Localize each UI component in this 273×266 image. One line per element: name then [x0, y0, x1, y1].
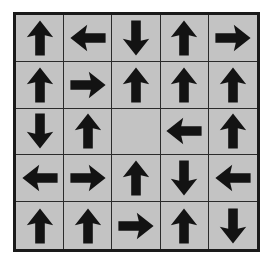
grid-cell-r4-c4: [161, 155, 209, 202]
arrow-down-icon: [164, 158, 204, 198]
arrow-up-icon: [213, 65, 253, 105]
grid-cell-r3-c1: [16, 109, 64, 156]
arrow-up-icon: [116, 158, 156, 198]
arrow-up-icon: [20, 206, 60, 246]
arrow-right-icon: [68, 158, 108, 198]
grid-cell-r1-c1: [16, 15, 64, 62]
arrow-left-icon: [20, 158, 60, 198]
grid-cell-r3-c2: [64, 109, 112, 156]
arrow-down-icon: [116, 18, 156, 58]
arrow-right-icon: [213, 18, 253, 58]
arrow-up-icon: [68, 111, 108, 151]
arrow-up-icon: [20, 18, 60, 58]
arrow-up-icon: [20, 65, 60, 105]
arrow-up-icon: [164, 206, 204, 246]
grid-cell-r4-c1: [16, 155, 64, 202]
arrow-up-icon: [164, 65, 204, 105]
grid-cell-r5-c3: [112, 202, 160, 249]
arrow-down-icon: [213, 206, 253, 246]
arrow-right-icon: [68, 65, 108, 105]
arrow-right-icon: [116, 206, 156, 246]
grid-cell-r1-c5: [209, 15, 257, 62]
grid-cell-r3-c3: [112, 109, 160, 156]
arrow-up-icon: [68, 206, 108, 246]
grid-cell-r4-c5: [209, 155, 257, 202]
grid-cell-r1-c2: [64, 15, 112, 62]
arrow-left-icon: [213, 158, 253, 198]
arrow-up-icon: [164, 18, 204, 58]
grid-cell-r4-c3: [112, 155, 160, 202]
arrow-left-icon: [68, 18, 108, 58]
grid-cell-r2-c1: [16, 62, 64, 109]
arrow-direction-grid: [13, 12, 260, 252]
grid-cell-r3-c5: [209, 109, 257, 156]
grid-cell-r2-c3: [112, 62, 160, 109]
grid-cell-r5-c2: [64, 202, 112, 249]
grid-cell-r3-c4: [161, 109, 209, 156]
grid-cell-r2-c4: [161, 62, 209, 109]
grid-cell-r5-c4: [161, 202, 209, 249]
grid-cell-r1-c3: [112, 15, 160, 62]
arrow-up-icon: [213, 111, 253, 151]
arrow-up-icon: [116, 65, 156, 105]
arrow-left-icon: [164, 111, 204, 151]
grid-cell-r2-c5: [209, 62, 257, 109]
grid-cell-r5-c1: [16, 202, 64, 249]
grid-cell-r1-c4: [161, 15, 209, 62]
grid-cell-r4-c2: [64, 155, 112, 202]
grid-cell-r5-c5: [209, 202, 257, 249]
arrow-down-icon: [20, 111, 60, 151]
grid-cell-r2-c2: [64, 62, 112, 109]
